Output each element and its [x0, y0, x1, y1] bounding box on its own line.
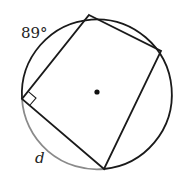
diagram: 89° d — [0, 0, 186, 178]
arc-angle-label: 89° — [21, 24, 48, 42]
center-point — [94, 89, 99, 94]
right-angle-marker — [28, 92, 36, 105]
arc-d-label: d — [35, 149, 45, 167]
